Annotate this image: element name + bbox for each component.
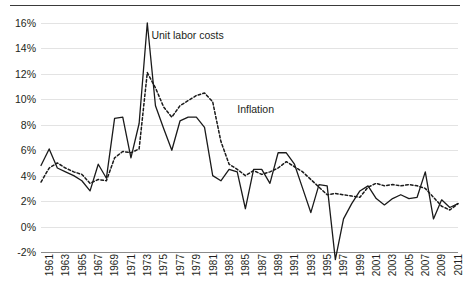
x-axis-tick-label: 1989 [274,254,284,276]
x-axis-tick-label: 1971 [127,254,137,276]
x-axis-tick-label: 1981 [209,254,219,276]
x-axis-tick-label: 1979 [192,254,202,276]
series-label-inflation: Inflation [237,104,274,115]
x-axis-tick-label: 1997 [339,254,349,276]
x-axis-tick-label: 2011 [454,254,464,276]
series-label-unit-labor-costs: Unit labor costs [151,30,223,41]
y-axis-tick-label: 4% [0,170,36,181]
x-axis-tick-label: 2001 [372,254,382,276]
x-axis-tick-label: 1991 [290,254,300,276]
x-axis-tick-label: 1987 [258,254,268,276]
x-axis-tick-label: 1983 [225,254,235,276]
x-axis-tick-label: 1995 [323,254,333,276]
y-axis-tick-label: 8% [0,120,36,131]
x-axis-tick-label: 2003 [388,254,398,276]
x-axis-tick-label: 2009 [437,254,447,276]
y-axis-tick-label: 2% [0,196,36,207]
x-axis-tick-label: 1993 [307,254,317,276]
top-rule-divider [10,5,460,6]
x-axis-labels: 1961196319651967196919711973197519771979… [41,254,458,291]
x-axis-tick-label: 1973 [143,254,153,276]
y-axis-tick-label: 6% [0,145,36,156]
y-axis-tick-label: 16% [0,18,36,29]
x-axis-tick-label: 2007 [421,254,431,276]
y-axis-tick-label: 14% [0,43,36,54]
x-axis-tick-label: 1999 [356,254,366,276]
series-lines [41,23,458,252]
chart-figure: 16%14%12%10%8%6%4%2%0%-2% Unit labor cos… [0,0,467,291]
x-axis-tick-label: 2005 [405,254,415,276]
x-axis-tick-label: 1975 [159,254,169,276]
x-axis-tick-label: 1969 [110,254,120,276]
y-axis-labels: 16%14%12%10%8%6%4%2%0%-2% [0,23,41,252]
y-axis-tick-label: -2% [0,247,36,258]
gridline [41,252,458,253]
y-axis-tick-label: 10% [0,94,36,105]
x-axis-tick-label: 1977 [176,254,186,276]
x-axis-tick-label: 1967 [94,254,104,276]
plot-area: Unit labor costsInflation [41,23,458,252]
x-axis-tick-label: 1965 [78,254,88,276]
x-axis-tick-label: 1963 [61,254,71,276]
y-axis-tick-label: 12% [0,69,36,80]
y-axis-tick-label: 0% [0,221,36,232]
x-axis-tick-label: 1985 [241,254,251,276]
series-line-unit-labor-costs [41,23,458,260]
x-axis-tick-label: 1961 [45,254,55,276]
